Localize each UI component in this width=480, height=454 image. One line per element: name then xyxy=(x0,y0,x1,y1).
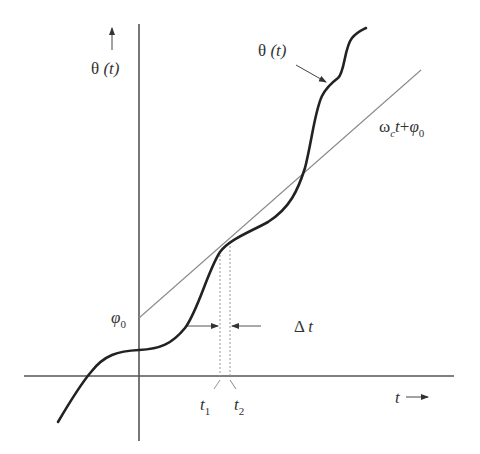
intercept-label: φ0 xyxy=(111,309,126,326)
t1-label: t1 xyxy=(200,396,210,413)
linear-reference-line xyxy=(139,70,421,318)
t1-tick xyxy=(214,380,220,389)
t2-label: t2 xyxy=(234,396,244,413)
phase-diagram xyxy=(0,0,480,454)
delta-t-label: Δ t xyxy=(294,318,313,335)
curve-label-pointer-icon xyxy=(296,65,326,82)
x-axis-label: t xyxy=(395,389,400,406)
t2-tick xyxy=(230,380,236,389)
curve-label: θ (t) xyxy=(258,42,286,59)
y-axis-label: θ (t) xyxy=(91,60,119,77)
line-label: ωct+φ0 xyxy=(379,118,424,135)
theta-curve xyxy=(58,28,366,422)
